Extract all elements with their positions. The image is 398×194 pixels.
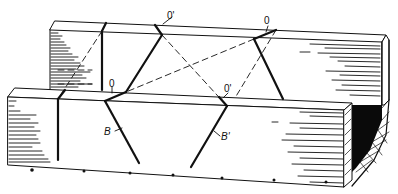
label-cut-b-prime: B' (221, 131, 231, 142)
back-wall-right-grain (300, 44, 380, 96)
channel-shadow (352, 100, 389, 186)
label-back-right-top: 0 (264, 15, 270, 26)
label-back-left-top: 0' (167, 10, 175, 21)
back-wall-end-grain (51, 33, 92, 87)
front-wall (8, 88, 352, 187)
mitre-box-diagram: 0' 0 0 0' B B' (0, 0, 398, 194)
label-front-right-top: 0' (224, 83, 232, 94)
label-cut-b: B (104, 126, 111, 137)
label-front-left-top: 0 (109, 78, 115, 89)
